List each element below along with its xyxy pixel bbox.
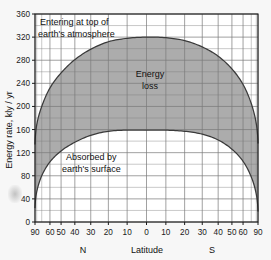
x-axis-title-text: Latitude (131, 245, 163, 255)
chart-figure: 04080120160200240280320360 9060504030201… (0, 0, 271, 260)
energy-rate-latitude-chart: 04080120160200240280320360 9060504030201… (0, 0, 271, 260)
annotation-energy-loss-line2: loss (142, 81, 159, 91)
y-tick-label: 280 (16, 56, 30, 65)
x-tick-label: 60 (239, 228, 249, 237)
annotation-bottom-curve-line1: Absorbed by (66, 152, 117, 162)
x-tick-label: 10 (123, 228, 133, 237)
annotation-energy-loss-line1: Energy (136, 69, 165, 79)
x-tick-label: 10 (161, 228, 171, 237)
y-tick-label: 0 (25, 218, 30, 227)
x-axis-title: Latitude (131, 245, 163, 255)
x-tick-label: 20 (104, 228, 114, 237)
y-tick-label: 40 (21, 195, 31, 204)
x-tick-label: 60 (45, 228, 55, 237)
x-tick-label: 40 (70, 228, 80, 237)
hemisphere-north-label: N (80, 245, 87, 255)
annotation-top-curve-line2: earth's atmosphere (38, 29, 115, 39)
y-tick-label: 240 (16, 79, 30, 88)
y-axis-title: Energy rate, kly / yr (4, 91, 14, 169)
x-tick-label: 50 (227, 228, 237, 237)
x-tick-label: 0 (144, 228, 149, 237)
y-axis-ticks: 04080120160200240280320360 (16, 10, 35, 227)
annotation-top-curve-line1: Entering at top of (40, 17, 109, 27)
y-tick-label: 160 (16, 126, 30, 135)
x-tick-label: 90 (30, 228, 40, 237)
x-tick-label: 90 (253, 228, 263, 237)
x-tick-label: 20 (180, 228, 190, 237)
y-tick-label: 80 (21, 172, 31, 181)
x-tick-label: 30 (86, 228, 96, 237)
x-tick-label: 50 (57, 228, 67, 237)
hemisphere-south-label: S (209, 245, 215, 255)
y-tick-label: 320 (16, 33, 30, 42)
y-tick-label: 360 (16, 10, 30, 19)
x-tick-label: 40 (214, 228, 224, 237)
annotation-bottom-curve-line2: earth's surface (62, 164, 121, 174)
x-tick-label: 30 (198, 228, 208, 237)
y-tick-label: 200 (16, 102, 30, 111)
x-axis-ticks: 90605040302010010203040506090 (30, 222, 263, 237)
y-axis-title-text: Energy rate, kly / yr (4, 91, 14, 169)
y-tick-label: 120 (16, 149, 30, 158)
